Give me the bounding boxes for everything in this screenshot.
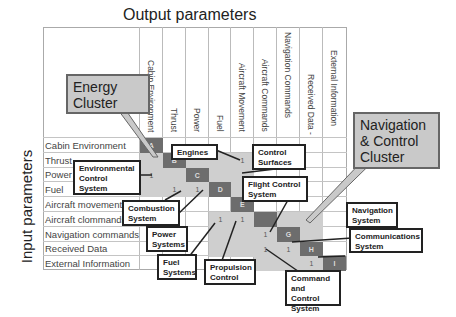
callout-text: Flight Control — [248, 180, 302, 190]
callout-text: Surfaces — [258, 158, 300, 168]
energy-cluster-label: Energy Cluster — [66, 74, 150, 114]
callout-text: System — [128, 214, 174, 224]
callout-engines: Engines — [171, 144, 218, 160]
callout-text: Propulsion — [210, 263, 250, 273]
cluster-label-line: Cluster — [73, 95, 143, 111]
callout-control-surfaces: ControlSurfaces — [252, 144, 306, 170]
callout-text: Systems — [163, 268, 191, 278]
callout-text: Control — [258, 148, 300, 158]
callout-text: System — [355, 242, 417, 252]
callout-navigation-system: NavigationSystem — [346, 202, 398, 228]
callout-text: System — [248, 190, 302, 200]
callout-text: Command — [291, 274, 335, 284]
callout-power-systems: PowerSystems — [146, 226, 188, 252]
cluster-label-line: Navigation — [360, 117, 433, 133]
cluster-label-line: Cluster — [360, 149, 433, 165]
callout-fuel-systems: FuelSystems — [157, 254, 197, 280]
callout-flight-control-system: Flight ControlSystem — [242, 176, 308, 202]
callout-text: System — [352, 216, 392, 226]
callout-communications-system: CommunicationsSystem — [349, 228, 423, 253]
callout-text: and Control — [291, 284, 335, 304]
callout-combustion-system: CombustionSystem — [122, 200, 180, 226]
callout-text: System — [291, 304, 335, 314]
callout-text: Environmental — [79, 164, 135, 174]
navigation-control-cluster-label: Navigation & Control Cluster — [353, 112, 440, 169]
callout-text: Fuel — [163, 258, 191, 268]
callout-text: System — [79, 184, 135, 194]
callout-propulsion-control: PropulsionControl — [204, 259, 256, 285]
callout-text: Communications — [355, 232, 417, 242]
callout-text: Control — [210, 273, 250, 283]
callout-text: Power — [152, 230, 182, 240]
callout-text: Control — [79, 174, 135, 184]
callout-environmental-control-system: EnvironmentalControlSystem — [73, 160, 141, 195]
cluster-label-line: Energy — [73, 79, 143, 95]
callout-text: Navigation — [352, 206, 392, 216]
cluster-label-line: & Control — [360, 133, 433, 149]
callout-text: Engines — [177, 148, 212, 158]
callout-text: Combustion — [128, 204, 174, 214]
callout-command-control-system: Commandand ControlSystem — [285, 270, 341, 306]
callout-text: Systems — [152, 240, 182, 250]
